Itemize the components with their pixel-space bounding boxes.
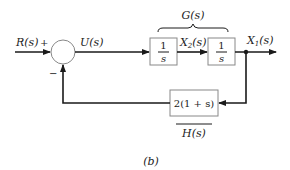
block-diagram: R(s) + − U(s) G(s) 1 s X2(s) 1 s X1(s) 2…: [0, 0, 290, 170]
g-label: G(s): [181, 9, 204, 22]
plus-sign: +: [40, 37, 48, 48]
minus-sign: −: [49, 68, 57, 79]
x1-label: X1(s): [246, 34, 274, 48]
u-label: U(s): [80, 36, 104, 49]
feedback-block-text: 2(1 + s): [174, 98, 214, 109]
feedback-path-left: [63, 65, 170, 103]
block1-denominator: s: [161, 53, 166, 64]
input-label: R(s): [15, 36, 39, 49]
integrator-block-1: 1 s: [150, 38, 177, 65]
block2-denominator: s: [219, 53, 224, 64]
h-label: H(s): [181, 127, 206, 140]
block1-numerator: 1: [160, 40, 166, 51]
integrator-block-2: 1 s: [208, 38, 235, 65]
figure-caption: (b): [143, 155, 159, 168]
feedback-block: 2(1 + s): [170, 90, 218, 116]
x2-label: X2(s): [179, 36, 207, 50]
g-brace: [158, 24, 228, 32]
summing-junction: [51, 40, 75, 64]
block2-numerator: 1: [218, 40, 224, 51]
